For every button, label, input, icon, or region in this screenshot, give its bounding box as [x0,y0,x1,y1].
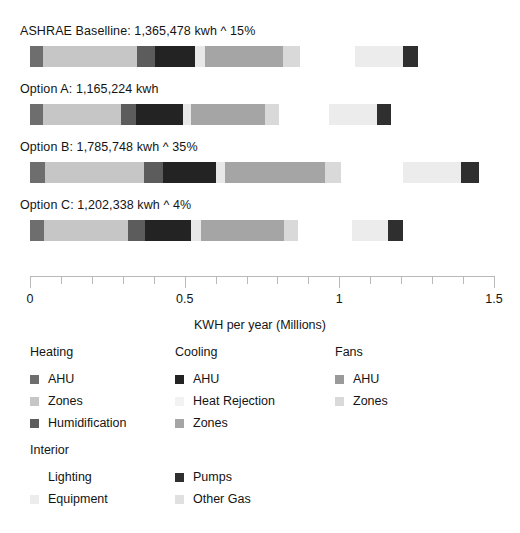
bar-segment-pumps [461,162,479,183]
bar-segment-cooling-zones [201,220,284,241]
legend-item[interactable]: Equipment [30,488,108,510]
legend-item[interactable]: AHU [335,368,388,390]
axis-tick-minor [216,276,217,284]
bar-segment-cooling-ahu [155,46,195,67]
bar-track [0,162,520,183]
legend-swatch-icon [30,495,39,504]
legend-item[interactable]: Humidification [30,412,127,434]
legend-swatch-icon [175,397,184,406]
axis-tick-label: 0.5 [176,292,193,306]
bar-segment-heating-humidification [128,220,145,241]
bar-segment-heating-zones [44,220,128,241]
axis-tick-major [30,276,31,288]
legend-item-label: Zones [353,395,388,408]
legend-swatch-icon [335,375,344,384]
bar-row-label: Option C: 1,202,338 kwh ^ 4% [20,198,191,212]
bar-segment-cooling-ahu [136,104,183,125]
axis-tick-label: 0 [27,292,34,306]
bar-segment-cooling-heat-rejection [216,162,226,183]
legend-item-label: Other Gas [193,493,251,506]
legend-group: PumpsOther Gas [175,443,251,510]
bar-segment-interior-lighting [341,162,403,183]
bar-segment-fans-zones [283,46,300,67]
legend-item[interactable]: Zones [335,390,388,412]
legend-item[interactable]: Heat Rejection [175,390,275,412]
bar-segment-heating-ahu [30,162,45,183]
legend-group: FansAHUZones [335,345,388,412]
bar-segment-cooling-heat-rejection [195,46,205,67]
bar-segment-pumps [377,104,391,125]
axis-tick-minor [123,276,124,284]
bar-row-label: ASHRAE Baselline: 1,365,478 kwh ^ 15% [20,24,255,38]
axis-title: KWH per year (Millions) [0,318,520,332]
legend-swatch-icon [30,375,39,384]
axis-tick-major [185,276,186,288]
legend-swatch-icon [175,375,184,384]
legend-item-label: AHU [193,373,219,386]
bar-segment-cooling-ahu [145,220,191,241]
bar-segment-heating-zones [43,104,121,125]
axis-tick-label: 1 [336,292,343,306]
bar-segment-fans-zones [284,220,299,241]
bar-segment-fans-zones [325,162,340,183]
legend-swatch-icon [335,397,344,406]
legend-item[interactable]: Pumps [175,466,251,488]
legend-item-label: AHU [48,373,74,386]
legend-item-label: Heat Rejection [193,395,275,408]
bar-segment-interior-equipment [355,46,403,67]
axis-tick-minor [463,276,464,284]
bar-segment-cooling-zones [205,46,283,67]
axis-tick-major [494,276,495,288]
bar-track [0,104,520,125]
axis-tick-minor [401,276,402,284]
legend-item[interactable]: AHU [30,368,127,390]
axis-tick-minor [277,276,278,284]
chart-legend: HeatingAHUZonesHumidificationInteriorLig… [0,345,520,533]
legend-item-label: Pumps [193,471,232,484]
bar-segment-heating-humidification [137,46,155,67]
legend-group-title: Interior [30,443,108,457]
legend-swatch-icon [30,419,39,428]
legend-swatch-icon [30,473,39,482]
legend-item-label: Zones [48,395,83,408]
legend-item[interactable]: Zones [30,390,127,412]
bar-row-label: Option A: 1,165,224 kwh [20,82,159,96]
axis-tick-minor [92,276,93,284]
stacked-bar-chart: ASHRAE Baselline: 1,365,478 kwh ^ 15%Opt… [0,0,520,335]
bar-segment-cooling-heat-rejection [191,220,201,241]
legend-group-title: Heating [30,345,127,359]
bar-segment-heating-zones [45,162,144,183]
axis-tick-minor [247,276,248,284]
legend-item[interactable]: Zones [175,412,275,434]
bar-segment-pumps [388,220,403,241]
bar-segment-cooling-ahu [163,162,216,183]
legend-group-title: Fans [335,345,388,359]
legend-item-label: Lighting [48,471,92,484]
bar-segment-fans-zones [265,104,279,125]
legend-swatch-icon [175,473,184,482]
bar-segment-heating-ahu [30,104,43,125]
bar-segment-interior-lighting [279,104,329,125]
bar-segment-pumps [403,46,418,67]
bar-segment-cooling-zones [191,104,265,125]
x-axis: 00.511.5 KWH per year (Millions) [0,276,520,336]
legend-group: CoolingAHUHeat RejectionZones [175,345,275,434]
legend-item[interactable]: Lighting [30,466,108,488]
legend-item-label: AHU [353,373,379,386]
legend-item[interactable]: AHU [175,368,275,390]
legend-item[interactable]: Other Gas [175,488,251,510]
bar-segment-interior-equipment [403,162,461,183]
axis-tick-minor [370,276,371,284]
bar-segment-heating-zones [43,46,137,67]
bar-segment-cooling-zones [225,162,325,183]
legend-group-title: Cooling [175,345,275,359]
axis-tick-minor [154,276,155,284]
legend-group-title [175,443,251,457]
legend-swatch-icon [175,495,184,504]
bar-segment-interior-equipment [329,104,377,125]
bar-segment-heating-ahu [30,220,44,241]
axis-tick-minor [308,276,309,284]
bar-segment-interior-lighting [300,46,355,67]
bar-segment-heating-ahu [30,46,43,67]
bar-segment-heating-humidification [144,162,163,183]
